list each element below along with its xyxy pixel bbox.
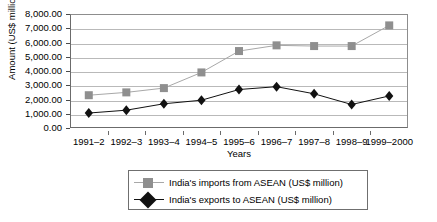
data-point-diamond bbox=[348, 99, 356, 109]
x-axis-tick-label: 1997–8 bbox=[298, 136, 330, 147]
data-point-diamond bbox=[122, 105, 130, 115]
data-point-square bbox=[160, 84, 168, 92]
legend-key-diamond-icon bbox=[129, 191, 169, 208]
series-exports bbox=[85, 82, 394, 118]
x-axis-tick bbox=[295, 131, 296, 135]
data-point-square bbox=[197, 68, 205, 76]
legend-item-imports: India's imports from ASEAN (US$ million) bbox=[129, 174, 343, 191]
x-axis-tick bbox=[370, 131, 371, 135]
x-axis-tick bbox=[333, 131, 334, 135]
x-axis-tick-label: 1998–9 bbox=[336, 136, 368, 147]
legend-item-exports: India's exports to ASEAN (US$ million) bbox=[129, 191, 332, 208]
x-axis-tick bbox=[220, 131, 221, 135]
data-point-diamond bbox=[85, 108, 93, 118]
x-axis-tick-label: 1994–5 bbox=[186, 136, 218, 147]
x-axis-tick bbox=[183, 131, 184, 135]
x-axis-tick-label: 1991–2 bbox=[73, 136, 105, 147]
legend: India's imports from ASEAN (US$ million)… bbox=[128, 170, 368, 210]
data-point-diamond bbox=[272, 82, 280, 92]
legend-key-square-icon bbox=[129, 174, 169, 191]
data-point-diamond bbox=[160, 99, 168, 109]
x-axis-tick-label: 1993–4 bbox=[148, 136, 180, 147]
data-point-square bbox=[385, 21, 393, 29]
data-point-diamond bbox=[197, 95, 205, 105]
data-point-square bbox=[85, 91, 93, 99]
data-point-square bbox=[235, 47, 243, 55]
x-axis-tick-label: 1996–7 bbox=[261, 136, 293, 147]
data-point-diamond bbox=[385, 91, 393, 101]
x-axis-tick bbox=[258, 131, 259, 135]
x-axis-tick-label: 1995–6 bbox=[223, 136, 255, 147]
x-axis-tick bbox=[145, 131, 146, 135]
data-point-diamond bbox=[310, 89, 318, 99]
legend-label-exports: India's exports to ASEAN (US$ million) bbox=[169, 194, 332, 205]
data-point-square bbox=[310, 42, 318, 50]
x-axis-tick-labels: 1991–21992–31993–41994–51995–61996–71997… bbox=[70, 131, 408, 147]
data-point-diamond bbox=[235, 85, 243, 95]
data-point-square bbox=[348, 42, 356, 50]
x-axis-tick-label: 1999–2000 bbox=[365, 136, 413, 147]
data-point-square bbox=[273, 41, 281, 49]
x-axis-tick bbox=[108, 131, 109, 135]
chart-container: Amount (US$ million) 8,000.007,000.006,0… bbox=[0, 0, 437, 222]
data-point-square bbox=[122, 88, 130, 96]
x-axis-title: Years bbox=[70, 148, 408, 159]
x-axis-tick-label: 1992–3 bbox=[110, 136, 142, 147]
legend-label-imports: India's imports from ASEAN (US$ million) bbox=[169, 177, 343, 188]
